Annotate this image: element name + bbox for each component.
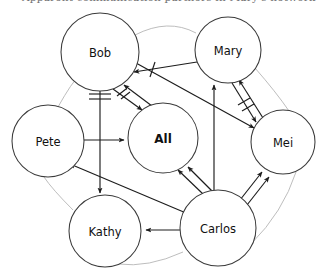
diagram-canvas: Apparent communication partners in Mary'…	[0, 0, 328, 278]
node-mei[interactable]: Mei	[251, 110, 315, 174]
node-bob[interactable]: Bob	[61, 13, 139, 91]
node-bob-label: Bob	[89, 46, 111, 60]
node-carlos-label: Carlos	[200, 222, 236, 236]
edge-carlos-all	[178, 167, 212, 194]
edge-mary-mei	[232, 80, 263, 122]
node-kathy-label: Kathy	[89, 225, 122, 239]
network-graph: Bob Mary Pete All Mei Kathy	[0, 0, 328, 278]
node-carlos[interactable]: Carlos	[180, 190, 256, 266]
edge-bob-all	[113, 85, 152, 110]
node-mary[interactable]: Mary	[195, 17, 261, 83]
node-mei-label: Mei	[273, 136, 293, 150]
edge-mary-bob	[134, 62, 197, 77]
node-pete-label: Pete	[35, 135, 60, 149]
edge-bob-kathy	[89, 91, 111, 193]
node-all[interactable]: All	[128, 103, 198, 173]
node-mary-label: Mary	[214, 44, 243, 58]
node-kathy[interactable]: Kathy	[69, 195, 141, 267]
node-group: Bob Mary Pete All Mei Kathy	[12, 13, 315, 267]
node-pete[interactable]: Pete	[12, 105, 84, 177]
node-all-label: All	[154, 132, 172, 146]
